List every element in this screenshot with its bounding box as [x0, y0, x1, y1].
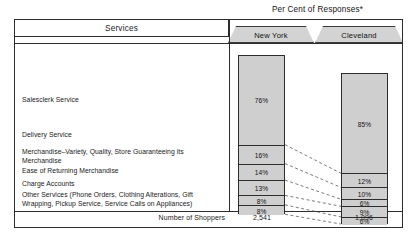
chart-figure: Per Cent of Responses* New York Clevelan… — [0, 0, 417, 240]
bar-segment-value: 16% — [239, 151, 284, 158]
shoppers-count-new-york: 2,541 — [232, 214, 292, 221]
bar-segment-value: 14% — [239, 169, 284, 176]
bar-segment: 16% — [239, 146, 284, 165]
bar-segment-value: 6% — [342, 200, 387, 207]
bar-segment: 12% — [342, 174, 387, 188]
number-of-shoppers-label: Number of Shoppers — [120, 214, 225, 221]
bar-segment: 13% — [239, 181, 284, 196]
services-column-divider — [229, 19, 230, 211]
services-header-label: Services — [15, 24, 228, 33]
bar-segment: 6% — [342, 200, 387, 207]
bar-segment: 85% — [342, 74, 387, 174]
bar-segment-value: 8% — [239, 207, 284, 214]
bar-segment: 14% — [239, 165, 284, 182]
services-header-cell: Services — [14, 19, 229, 37]
stacked-bar-new-york: 76%16%14%13%8%8% — [238, 55, 285, 214]
service-label: Merchandise–Variety, Quality, Store Guar… — [22, 148, 184, 165]
service-label: Charge Accounts — [22, 180, 75, 189]
bar-segment-value: 12% — [342, 177, 387, 184]
stacked-bar-cleveland: 85%12%10%6%9%6% — [341, 73, 388, 224]
shoppers-count-cleveland: 1,096 — [334, 214, 394, 221]
bar-segment-value: 85% — [342, 120, 387, 127]
bar-segment: 76% — [239, 56, 284, 146]
service-label: Ease of Returning Merchandise — [22, 167, 119, 176]
bar-segment-value: 8% — [239, 197, 284, 204]
service-label: Delivery Service — [22, 131, 72, 140]
header-divider — [14, 43, 403, 44]
responses-supertitle: Per Cent of Responses* — [230, 5, 405, 14]
service-label: Salesclerk Service — [22, 96, 79, 105]
bar-segment-value: 10% — [342, 190, 387, 197]
bar-segment: 10% — [342, 188, 387, 200]
bar-segment-value: 13% — [239, 185, 284, 192]
bar-segment: 8% — [239, 196, 284, 205]
service-label: Other Services (Phone Orders, Clothing A… — [22, 191, 193, 208]
bar-segment-value: 76% — [239, 97, 284, 104]
